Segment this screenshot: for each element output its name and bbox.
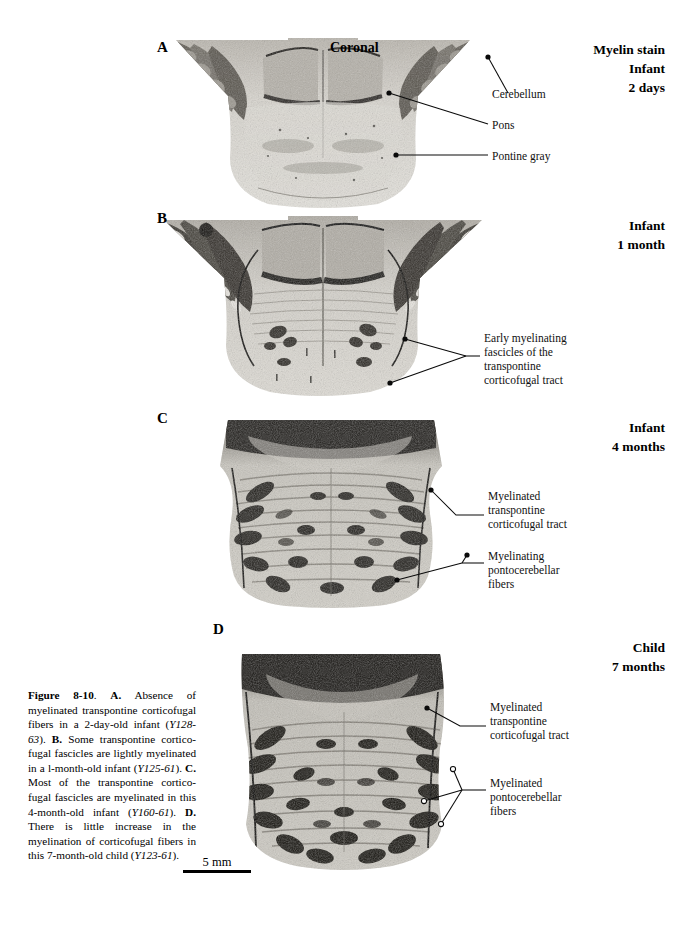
caption-segment-13: ). (170, 806, 186, 818)
panel-letter-a: A (157, 40, 168, 55)
callout-pontine-gray: Pontine gray (492, 149, 550, 163)
caption-segment-9: ). (175, 762, 185, 774)
callout-cerebellum: Cerebellum (492, 87, 546, 101)
caption-segment-1: . (94, 689, 111, 701)
panel-a-heading-line-1: Myelin stain (593, 40, 665, 59)
marker-cerebellum (485, 54, 490, 59)
caption-segment-10: C. (185, 762, 196, 774)
panel-b-heading-line-2: 1 month (617, 235, 665, 254)
panel-d-heading-line-1: Child (612, 638, 665, 657)
panel-c-heading: Infant 4 months (612, 418, 665, 456)
panel-a-heading-line-2: Infant (593, 59, 665, 78)
callout-c-myelinated-transpontine-corticofugal-tract: Myelinated transpontine corticofugal tra… (488, 489, 567, 531)
caption-segment-2: A. (110, 689, 121, 701)
panel-b-heading-line-1: Infant (617, 216, 665, 235)
panel-letter-d: D (213, 622, 224, 637)
figure-caption: Figure 8-10. A. Absence of myelinated tr… (28, 688, 196, 863)
micrograph-panel-d (226, 652, 474, 874)
panel-a-heading: Myelin stain Infant 2 days (593, 40, 665, 97)
micrograph-panel-b (158, 216, 488, 396)
callout-d-myelinated-pontocerebellar-fibers: Myelinated pontocerebellar fibers (490, 776, 562, 818)
panel-c-heading-line-1: Infant (612, 418, 665, 437)
callout-d-myelinated-transpontine-corticofugal-tract: Myelinated transpontine corticofugal tra… (490, 700, 569, 742)
caption-segment-14: D. (185, 806, 196, 818)
panel-letter-c: C (157, 411, 168, 426)
scale-bar: 5 mm (183, 855, 251, 873)
orientation-title: Coronal (330, 40, 379, 56)
callout-early-myelinating-fascicles: Early myelinating fascicles of the trans… (484, 331, 567, 387)
scale-bar-label: 5 mm (183, 855, 251, 869)
caption-segment-5: ). (39, 733, 52, 745)
micrograph-panel-c (186, 418, 476, 608)
panel-letter-b: B (157, 211, 167, 226)
panel-b-heading: Infant 1 month (617, 216, 665, 254)
scale-bar-rule (183, 870, 251, 873)
panel-c-heading-line-2: 4 months (612, 437, 665, 456)
panel-a-heading-line-3: 2 days (593, 78, 665, 97)
caption-segment-0: Figure 8-10 (28, 689, 94, 701)
callout-pons: Pons (492, 118, 514, 132)
caption-segment-6: B. (52, 733, 62, 745)
callout-c-myelinating-pontocerebellar-fibers: Myelinating pontocerebellar fibers (488, 549, 560, 591)
micrograph-panel-a (168, 38, 478, 210)
panel-d-heading-line-2: 7 months (612, 657, 665, 676)
caption-segment-17: ). (173, 849, 180, 861)
caption-segment-12: Y160-61 (132, 806, 170, 818)
caption-segment-8: Y125-61 (138, 762, 176, 774)
figure-8-10: A B C D Coronal Myelin stain Infant 2 da… (0, 0, 673, 942)
panel-d-heading: Child 7 months (612, 638, 665, 676)
caption-segment-16: Y123-61 (135, 849, 173, 861)
